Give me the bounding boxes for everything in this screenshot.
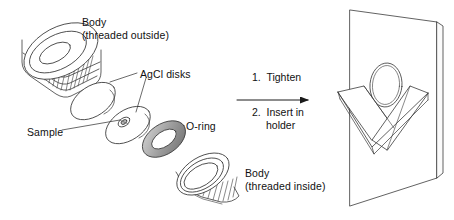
step-2-text-line2: holder (252, 119, 304, 132)
label-body-outside-line1: Body (82, 16, 106, 28)
label-body-threaded-inside: Body(threaded inside) (245, 167, 326, 192)
diagram-drawing (0, 0, 454, 220)
label-body-inside-line2: (threaded inside) (245, 180, 326, 192)
component-body-threaded-inside (169, 144, 239, 204)
label-o-ring: O-ring (186, 120, 216, 133)
step-2-text: Insert in (267, 106, 304, 118)
step-2: 2. Insert inholder (252, 106, 304, 131)
step-2-number: 2. (252, 106, 261, 118)
step-1: 1. Tighten (252, 71, 301, 84)
label-agcl-disks: AgCl disks (140, 68, 191, 81)
label-body-inside-line1: Body (245, 167, 269, 179)
step-1-text: Tighten (266, 71, 301, 83)
label-body-outside-line2: (threaded outside) (82, 29, 169, 41)
exploded-assembly-diagram: Body(threaded outside) AgCl disks Sample… (0, 0, 454, 220)
label-body-threaded-outside: Body(threaded outside) (82, 16, 169, 41)
label-sample: Sample (27, 126, 63, 139)
step-1-number: 1. (252, 71, 261, 83)
